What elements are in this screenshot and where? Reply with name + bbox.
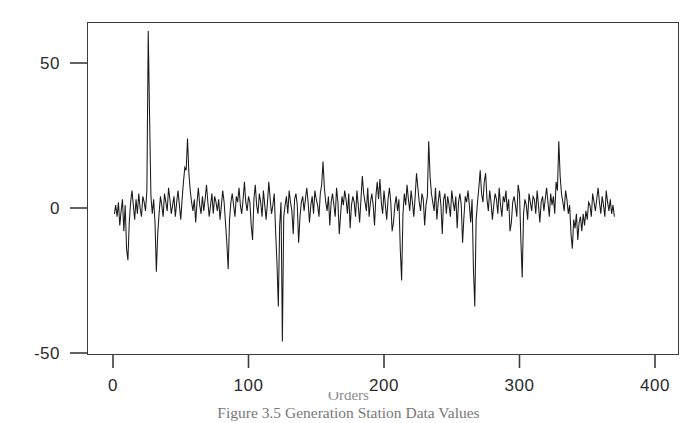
y-tick-label: -50 bbox=[34, 344, 60, 363]
y-axis-tick-labels: 500-50 bbox=[34, 54, 60, 363]
x-axis-title-text: Orders bbox=[328, 392, 369, 402]
figure-caption-text: Figure 3.5 Generation Station Data Value… bbox=[0, 404, 697, 422]
y-tick-label: 0 bbox=[50, 199, 60, 218]
y-axis-ticks bbox=[70, 63, 87, 353]
data-series-group bbox=[114, 31, 614, 341]
figure-container: 500-50 0100200300400 Orders Figure 3.5 G… bbox=[0, 0, 697, 423]
x-axis-title: Orders bbox=[0, 392, 697, 402]
series-line-residual bbox=[114, 31, 614, 341]
plot-svg: 500-50 0100200300400 bbox=[0, 0, 697, 423]
figure-caption: Figure 3.5 Generation Station Data Value… bbox=[0, 404, 697, 423]
x-axis-ticks bbox=[113, 355, 655, 368]
y-tick-label: 50 bbox=[40, 54, 60, 73]
